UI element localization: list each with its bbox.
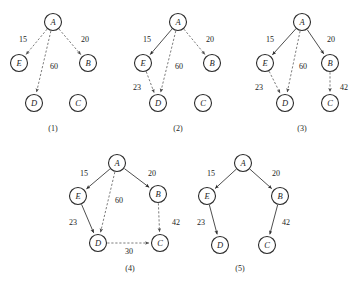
edge-weight-label: 20 (81, 35, 89, 44)
graph-panel: 1515202060602323AEBDC(2) (133, 14, 221, 133)
graph-node-label: A (174, 17, 181, 27)
graph-node-label: C (264, 240, 270, 250)
graph-panel: 1515202023234242AEBDC(5) (197, 155, 290, 273)
edge-a-to-d (101, 172, 115, 232)
edge-a-to-d (37, 31, 51, 92)
graph-node-label: D (30, 98, 38, 108)
graph-node-label: E (261, 58, 268, 68)
panel-caption: (4) (125, 264, 135, 273)
graph-node-label: A (49, 17, 56, 27)
panel-caption: (2) (173, 124, 183, 133)
edge-weight-label: 42 (172, 218, 180, 227)
graph-figure: 151520206060AEBDC(1)1515202060602323AEBD… (0, 0, 362, 283)
graph-node-label: A (298, 17, 305, 27)
edge-weight-label: 20 (327, 35, 335, 44)
graph-node-label: A (239, 158, 246, 168)
edge-weight-label: 20 (206, 35, 214, 44)
graph-node-label: B (327, 58, 332, 68)
edge-weight-label: 15 (80, 169, 88, 178)
edge-weight-label: 42 (282, 218, 290, 227)
graph-node-label: A (113, 158, 120, 168)
edge-weight-label: 23 (255, 83, 263, 92)
graph-node-label: B (209, 58, 214, 68)
panel-caption: (1) (48, 124, 58, 133)
graph-node-label: B (277, 191, 282, 201)
graph-node-label: C (157, 238, 163, 248)
graph-node-label: D (281, 98, 289, 108)
edge-weight-label: 15 (207, 169, 215, 178)
edge-a-to-e (272, 29, 295, 55)
graph-node-label: C (327, 98, 333, 108)
graph-node-label: E (139, 58, 146, 68)
edge-weight-label: 60 (50, 62, 58, 71)
graph-node-label: E (15, 58, 22, 68)
edge-weight-label: 20 (272, 169, 280, 178)
edge-a-to-e (86, 169, 109, 189)
graph-node-label: E (74, 191, 81, 201)
edge-weight-label: 15 (266, 35, 274, 44)
edge-a-to-e (150, 29, 172, 54)
edge-weight-label: 60 (175, 62, 183, 71)
edge-b-to-c (270, 205, 278, 234)
edge-e-to-d (146, 72, 154, 93)
edge-weight-label: 23 (133, 83, 141, 92)
graph-panel: 151520206060232342423030AEBDC(4) (69, 155, 180, 273)
edge-weight-label: 15 (143, 35, 151, 44)
edge-a-to-b (59, 29, 81, 54)
edge-a-to-b (124, 169, 149, 188)
graph-node-label: B (155, 189, 160, 199)
edge-weight-label: 23 (69, 218, 77, 227)
edge-weight-label: 30 (125, 247, 133, 256)
edge-e-to-d (269, 71, 280, 93)
graph-node-label: C (75, 98, 81, 108)
edge-e-to-d (82, 205, 94, 233)
graph-panel: 151520206060AEBDC(1) (11, 14, 97, 133)
figure-canvas: 151520206060AEBDC(1)1515202060602323AEBD… (0, 0, 362, 283)
edge-a-to-b (184, 29, 205, 54)
edge-weight-label: 15 (19, 35, 27, 44)
edge-weight-label: 20 (148, 169, 156, 178)
edge-b-to-c (158, 203, 159, 232)
graph-panel: 15152020606023234242AEBDC(3) (255, 14, 348, 133)
edge-a-to-b (250, 169, 272, 188)
panel-caption: (5) (235, 264, 245, 273)
edge-a-to-e (26, 29, 47, 54)
edge-a-to-b (307, 30, 323, 54)
edge-e-to-d (209, 205, 217, 234)
panel-caption: (3) (297, 124, 307, 133)
edge-weight-label: 23 (197, 218, 205, 227)
panels-layer: 151520206060AEBDC(1)1515202060602323AEBD… (11, 14, 349, 273)
edge-weight-label: 60 (115, 196, 123, 205)
graph-node-label: B (85, 58, 90, 68)
graph-node-label: D (154, 98, 162, 108)
edge-weight-label: 60 (299, 62, 307, 71)
graph-node-label: D (216, 240, 224, 250)
graph-node-label: C (200, 98, 206, 108)
graph-node-label: E (203, 191, 210, 201)
graph-node-label: D (94, 238, 102, 248)
edge-a-to-e (215, 169, 236, 188)
edge-weight-label: 42 (340, 83, 348, 92)
